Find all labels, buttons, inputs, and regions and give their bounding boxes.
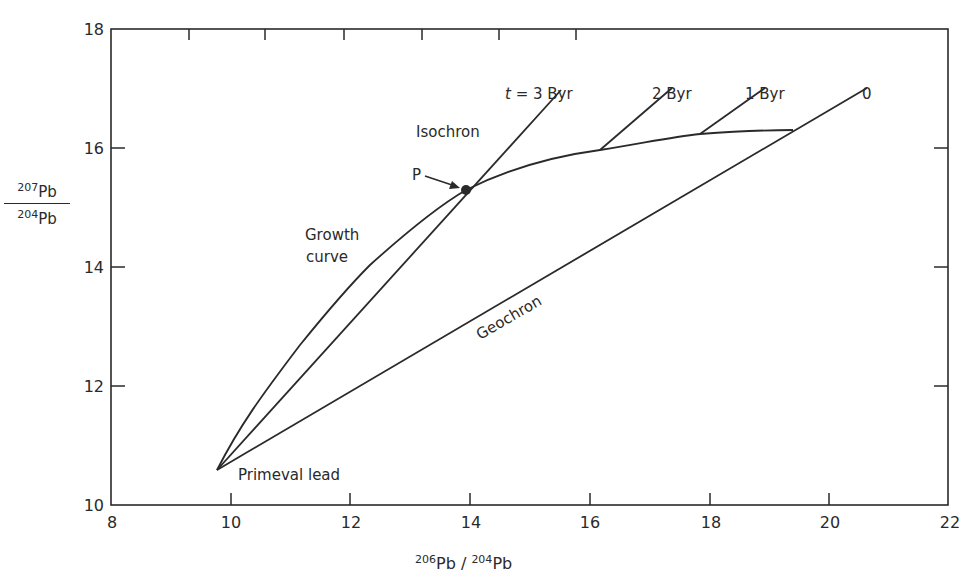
- geochron-line: [217, 88, 867, 470]
- svg-text:14: 14: [84, 258, 104, 277]
- y-tick-labels: 10 12 14 16 18: [84, 20, 104, 515]
- svg-text:22: 22: [940, 513, 960, 532]
- svg-text:14: 14: [461, 513, 481, 532]
- svg-text:12: 12: [341, 513, 361, 532]
- lead-isotope-chart: 8 10 12 14 16 18 20 22 10 12 14 16 18 t …: [0, 0, 971, 587]
- point-p-marker: [461, 185, 471, 195]
- label-geochron-0: 0: [862, 85, 872, 103]
- svg-text:16: 16: [84, 139, 104, 158]
- y-axis-ticks: [111, 148, 948, 386]
- svg-text:20: 20: [820, 513, 840, 532]
- svg-text:18: 18: [701, 513, 721, 532]
- svg-text:16: 16: [580, 513, 600, 532]
- svg-text:12: 12: [84, 377, 104, 396]
- y-axis-numerator: 207Pb: [4, 178, 70, 204]
- label-p: P: [412, 166, 421, 184]
- isochron-3byr-line: [217, 90, 561, 470]
- label-isochron-1byr: 1 Byr: [745, 85, 785, 103]
- label-curve: curve: [306, 248, 348, 266]
- svg-text:10: 10: [221, 513, 241, 532]
- label-isochron-3byr: t = 3 Byr: [505, 85, 573, 103]
- svg-text:8: 8: [107, 513, 117, 532]
- x-axis-label: 206Pb / 204Pb: [415, 553, 512, 573]
- label-growth: Growth: [305, 226, 359, 244]
- x-tick-labels: 8 10 12 14 16 18 20 22: [107, 513, 960, 532]
- svg-text:10: 10: [84, 496, 104, 515]
- svg-text:18: 18: [84, 20, 104, 39]
- label-isochron: Isochron: [416, 123, 480, 141]
- label-primeval-lead: Primeval lead: [238, 466, 340, 484]
- point-p-arrow: [425, 176, 460, 189]
- y-axis-label: 207Pb 204Pb: [4, 178, 70, 229]
- label-isochron-2byr: 2 Byr: [652, 85, 692, 103]
- y-axis-denominator: 204Pb: [4, 204, 70, 229]
